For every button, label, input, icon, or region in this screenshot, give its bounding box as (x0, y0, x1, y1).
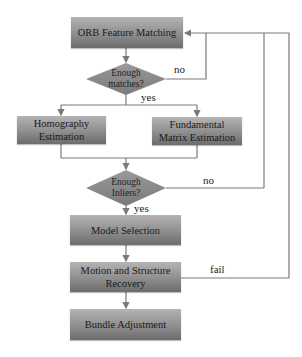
inliers-yes-label: yes (134, 202, 149, 214)
orb-feature-matching-node: ORB Feature Matching (71, 17, 183, 48)
fundamental-matrix-node: Fundamental Matrix Estimation (152, 117, 242, 145)
enough-inliers-label: Enough Inliers? (96, 177, 156, 199)
enough-matches-label: Enough matches? (96, 68, 156, 90)
bundle-adjustment-node: Bundle Adjustment (70, 309, 181, 340)
matches-yes-label: yes (141, 91, 156, 103)
motion-fail-label: fail (210, 263, 225, 275)
orb-label: ORB Feature Matching (78, 26, 177, 39)
matches-no-label: no (174, 63, 185, 75)
inliers-no-label: no (203, 174, 214, 186)
model-selection-node: Model Selection (70, 215, 181, 245)
motion-structure-recovery-node: Motion and Structure Recovery (70, 262, 181, 292)
homography-estimation-node: Homography Estimation (17, 116, 106, 144)
